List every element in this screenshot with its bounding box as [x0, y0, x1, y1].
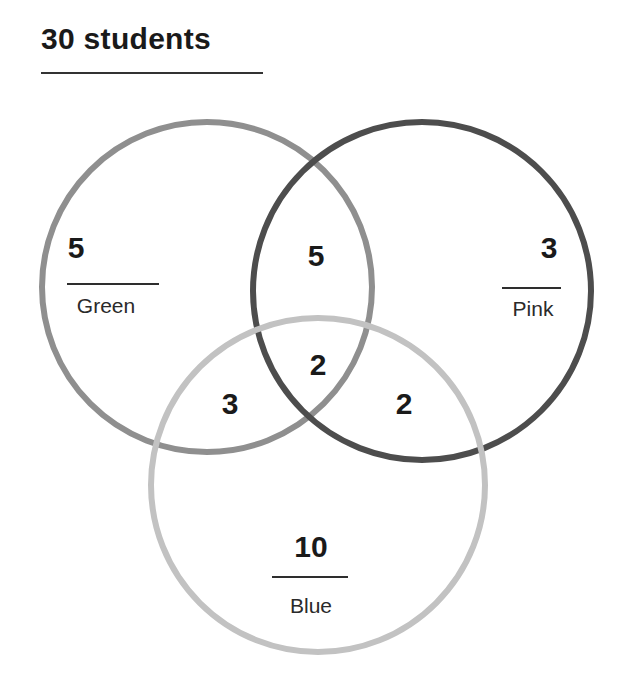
blue-label-rule: [272, 576, 348, 578]
green-only-count: 5: [68, 231, 85, 265]
green-label-rule: [67, 283, 159, 285]
green-circle: [42, 122, 372, 452]
blue-only-count: 10: [294, 530, 327, 564]
blue-label: Blue: [290, 594, 332, 618]
green-pink-count: 5: [308, 239, 325, 273]
green-label: Green: [77, 294, 135, 318]
pink-label-rule: [502, 287, 561, 289]
pink-only-count: 3: [541, 231, 558, 265]
pink-blue-count: 2: [396, 387, 413, 421]
all-three-count: 2: [310, 348, 327, 382]
pink-circle: [253, 122, 591, 460]
green-blue-count: 3: [222, 387, 239, 421]
pink-label: Pink: [513, 297, 554, 321]
